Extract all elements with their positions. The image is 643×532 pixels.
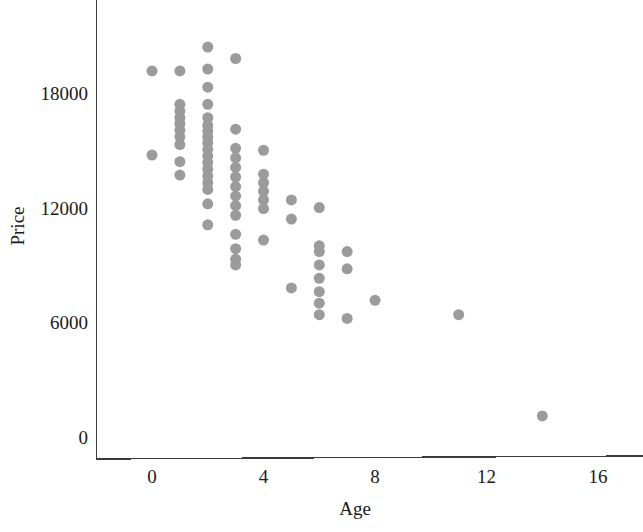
plot-canvas: 060001200018000 0481216 Age Price bbox=[0, 0, 643, 532]
data-point bbox=[230, 162, 241, 173]
data-point bbox=[230, 210, 241, 221]
x-tick-label: 12 bbox=[477, 466, 496, 487]
data-point bbox=[342, 313, 353, 324]
data-point bbox=[230, 243, 241, 254]
data-point bbox=[174, 156, 185, 167]
data-point bbox=[202, 184, 213, 195]
data-point bbox=[230, 259, 241, 270]
data-point bbox=[258, 235, 269, 246]
data-point bbox=[314, 259, 325, 270]
x-axis-line bbox=[97, 456, 643, 459]
data-point bbox=[174, 65, 185, 76]
data-point bbox=[314, 273, 325, 284]
data-point bbox=[230, 172, 241, 183]
data-point bbox=[202, 82, 213, 93]
x-tick-label: 8 bbox=[370, 466, 380, 487]
scatter-plot-figure: 060001200018000 0481216 Age Price bbox=[0, 0, 643, 532]
y-tick-label: 18000 bbox=[41, 83, 89, 104]
data-point bbox=[286, 282, 297, 293]
data-point bbox=[147, 150, 158, 161]
x-tick-label-group: 0481216 bbox=[147, 466, 607, 487]
data-point bbox=[202, 99, 213, 110]
data-point bbox=[342, 246, 353, 257]
data-point bbox=[370, 295, 381, 306]
data-point bbox=[230, 191, 241, 202]
data-point bbox=[537, 410, 548, 421]
data-point bbox=[258, 203, 269, 214]
data-point bbox=[258, 145, 269, 156]
data-point bbox=[342, 263, 353, 274]
data-points-group bbox=[147, 42, 548, 422]
data-point bbox=[230, 152, 241, 163]
data-point bbox=[314, 246, 325, 257]
y-tick-label: 0 bbox=[79, 427, 89, 448]
data-point bbox=[230, 53, 241, 64]
data-point bbox=[286, 214, 297, 225]
x-tick-label: 0 bbox=[147, 466, 157, 487]
y-tick-label-group: 060001200018000 bbox=[41, 83, 89, 448]
y-tick-label: 12000 bbox=[41, 198, 89, 219]
data-point bbox=[230, 181, 241, 192]
data-point bbox=[230, 229, 241, 240]
data-point bbox=[314, 309, 325, 320]
y-axis-title: Price bbox=[7, 206, 28, 245]
data-point bbox=[314, 298, 325, 309]
data-point bbox=[174, 139, 185, 150]
data-point bbox=[202, 219, 213, 230]
data-point bbox=[174, 170, 185, 181]
data-point bbox=[230, 124, 241, 135]
data-point bbox=[230, 200, 241, 211]
data-point bbox=[230, 143, 241, 154]
data-point bbox=[202, 42, 213, 53]
data-point bbox=[147, 65, 158, 76]
x-tick-label: 16 bbox=[589, 466, 608, 487]
data-point bbox=[314, 286, 325, 297]
data-point bbox=[286, 194, 297, 205]
x-axis-title: Age bbox=[339, 498, 371, 519]
data-point bbox=[314, 202, 325, 213]
y-tick-label: 6000 bbox=[50, 312, 88, 333]
x-tick-label: 4 bbox=[259, 466, 269, 487]
data-point bbox=[453, 309, 464, 320]
data-point bbox=[202, 64, 213, 75]
data-point bbox=[202, 198, 213, 209]
